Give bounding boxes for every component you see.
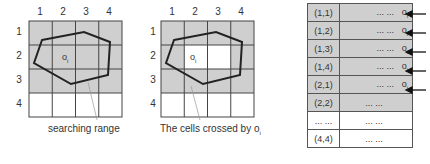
caption-searching-range: searching range — [48, 123, 120, 134]
object-label: oi — [190, 52, 196, 64]
arrow-icons — [396, 0, 430, 164]
grid-searching-range — [0, 0, 140, 125]
grid-crossed-cells — [132, 0, 272, 125]
caption-crossed-cells: The cells crossed by oi — [160, 123, 261, 136]
object-label: oi — [62, 52, 68, 64]
